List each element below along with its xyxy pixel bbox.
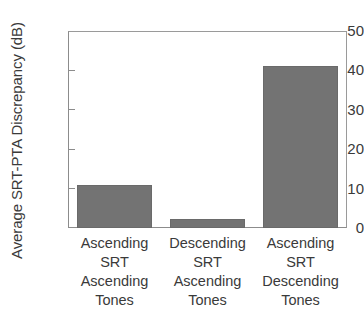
x-axis-category-label-line: Ascending (68, 234, 161, 253)
bar-chart-figure: Average SRT-PTA Discrepancy (dB) 0102030… (0, 0, 364, 315)
x-axis-category-label-line: Ascending (254, 234, 347, 253)
x-axis-category-label: DescendingSRTAscendingTones (161, 234, 254, 310)
x-axis-category-label-line: Tones (68, 291, 161, 310)
x-axis-category-label-line: SRT (254, 253, 347, 272)
x-axis-category-label-line: SRT (161, 253, 254, 272)
x-axis-category-label-line: Tones (254, 291, 347, 310)
x-axis-category-label-line: SRT (68, 253, 161, 272)
x-axis-category-label-line: Tones (161, 291, 254, 310)
x-axis-category-label-line: Descending (161, 234, 254, 253)
x-axis-category-label-line: Descending (254, 272, 347, 291)
x-axis-category-label-line: Ascending (161, 272, 254, 291)
x-axis-category-label-line: Ascending (68, 272, 161, 291)
x-axis-category-labels: AscendingSRTAscendingTonesDescendingSRTA… (0, 0, 364, 315)
x-axis-category-label: AscendingSRTAscendingTones (68, 234, 161, 310)
x-axis-category-label: AscendingSRTDescendingTones (254, 234, 347, 310)
